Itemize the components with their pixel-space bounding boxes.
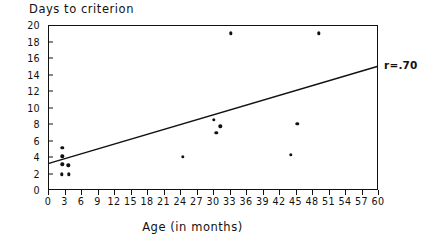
y-axis-title: Days to criterion — [29, 2, 134, 16]
x-tick-mark — [345, 190, 346, 195]
x-tick-mark — [197, 190, 198, 195]
y-tick-mark — [48, 157, 53, 158]
x-tick-mark — [48, 190, 49, 195]
y-tick-label: 0 — [16, 185, 40, 196]
y-tick-label: 2 — [16, 168, 40, 179]
x-tick-label: 60 — [366, 196, 390, 207]
y-tick-label: 4 — [16, 152, 40, 163]
x-tick-mark — [131, 190, 132, 195]
x-tick-mark — [230, 190, 231, 195]
y-tick-mark — [48, 107, 53, 108]
y-tick-label: 20 — [16, 20, 40, 31]
x-tick-mark — [147, 190, 148, 195]
y-tick-label: 18 — [16, 36, 40, 47]
y-tick-mark — [48, 91, 53, 92]
x-tick-mark — [98, 190, 99, 195]
x-tick-mark — [279, 190, 280, 195]
scatter-plot-figure: Days to criterion 02468101214161820 0369… — [0, 0, 427, 245]
y-tick-label: 16 — [16, 53, 40, 64]
x-tick-mark — [65, 190, 66, 195]
y-tick-mark — [48, 58, 53, 59]
correlation-annotation: r=.70 — [384, 59, 418, 71]
x-axis-title: Age (in months) — [0, 220, 427, 234]
y-tick-label: 10 — [16, 102, 40, 113]
x-axis-title-text: Age (in months) — [142, 220, 243, 234]
plot-frame — [48, 25, 378, 190]
x-tick-mark — [246, 190, 247, 195]
x-tick-mark — [329, 190, 330, 195]
x-tick-mark — [81, 190, 82, 195]
y-tick-label: 14 — [16, 69, 40, 80]
y-tick-mark — [48, 173, 53, 174]
y-tick-mark — [48, 140, 53, 141]
y-tick-label: 12 — [16, 86, 40, 97]
y-tick-mark — [48, 41, 53, 42]
y-tick-mark — [48, 74, 53, 75]
y-tick-label: 6 — [16, 135, 40, 146]
x-tick-mark — [312, 190, 313, 195]
x-tick-mark — [164, 190, 165, 195]
y-tick-label: 8 — [16, 119, 40, 130]
x-tick-mark — [114, 190, 115, 195]
x-tick-mark — [213, 190, 214, 195]
x-tick-mark — [362, 190, 363, 195]
x-tick-mark — [180, 190, 181, 195]
y-tick-mark — [48, 124, 53, 125]
x-tick-mark — [263, 190, 264, 195]
x-tick-mark — [296, 190, 297, 195]
x-tick-mark — [378, 190, 379, 195]
